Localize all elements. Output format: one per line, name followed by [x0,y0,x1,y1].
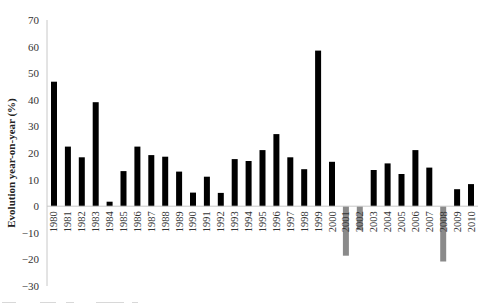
x-tick-label: 1988 [160,211,171,232]
x-tick-label: 1994 [243,210,254,232]
caption-fragment-line [132,302,138,303]
x-tick-label: 1990 [187,211,198,232]
bar-1986 [134,147,140,207]
bar-2007 [426,168,432,207]
bar-1999 [315,51,321,207]
bar-1984 [107,202,113,207]
clipped-caption [0,300,492,305]
bar-1992 [218,193,224,206]
x-tick-label: 2005 [396,211,407,232]
caption-fragment-line [40,302,56,303]
x-tick-label: 1985 [118,211,129,232]
x-tick-label: 1998 [299,211,310,232]
x-tick-label: 2006 [410,211,421,232]
y-tick-label: 10 [28,174,40,186]
x-tick-label: 2007 [424,211,435,232]
x-tick-label: 2004 [382,210,393,232]
x-tick-label: 1992 [215,211,226,232]
caption-fragment-line [2,302,16,303]
bar-1990 [190,193,196,207]
x-tick-label: 1993 [229,211,240,232]
x-tick-label: 2008 [438,211,449,232]
bar-1994 [246,161,252,206]
y-tick-label: 20 [28,147,40,159]
y-tick-label: 50 [28,67,40,79]
caption-fragment-line [66,302,74,303]
x-tick-label: 2009 [452,211,463,232]
bar-1998 [301,169,307,206]
x-tick-label: 1986 [132,211,143,232]
bar-2010 [468,184,474,206]
x-tick-label: 1991 [201,211,212,232]
x-tick-label: 1987 [146,211,157,232]
x-tick-label: 2001 [340,211,351,232]
y-tick-label: 70 [28,14,40,26]
x-tick-label: 1995 [257,211,268,232]
x-tick-label: 1980 [48,211,59,232]
bar-1981 [65,147,71,207]
y-tick-label: 60 [28,41,40,53]
caption-fragment-line [96,302,124,303]
x-tick-label: 1981 [62,211,73,232]
bar-2000 [329,162,335,206]
bar-1991 [204,177,210,207]
x-tick-label: 1997 [285,211,296,232]
bar-1982 [79,157,85,206]
bar-2009 [454,189,460,206]
bar-1997 [287,157,293,206]
x-tick-label: 1989 [174,211,185,232]
y-tick-label: 40 [28,94,40,106]
x-tick-label: 2003 [368,211,379,232]
bar-1993 [232,159,238,206]
y-axis-title-group: Evolution year-on-year (%) [5,98,18,228]
bar-1987 [148,155,154,206]
x-tick-label: 2002 [354,211,365,232]
bar-2004 [385,163,391,206]
y-tick-label: −10 [22,227,40,239]
bar-1989 [176,172,182,207]
x-tick-label: 1984 [104,210,115,232]
x-tick-label: 1982 [76,211,87,232]
bar-1996 [273,134,279,206]
x-tick-label: 1999 [313,211,324,232]
x-axis-ticks: 1980198119821983198419851986198719881989… [48,210,476,232]
bar-1995 [260,150,266,206]
bar-1980 [51,82,57,207]
y-tick-label: 0 [34,200,40,212]
bar-1985 [121,171,127,206]
y-axis-ticks: 706050403020100−10−20−30 [22,14,40,292]
bar-2005 [399,174,405,206]
bar-2006 [412,150,418,206]
y-axis-title: Evolution year-on-year (%) [5,98,18,228]
y-tick-label: 30 [28,120,40,132]
y-tick-label: −20 [22,253,40,265]
y-tick-label: −30 [22,280,40,292]
bar-1988 [162,157,168,207]
x-tick-label: 1996 [271,211,282,232]
x-tick-label: 2000 [327,211,338,232]
bar-1983 [93,102,99,206]
bar-2003 [371,170,377,206]
x-tick-label: 2010 [466,211,477,232]
x-tick-label: 1983 [90,211,101,232]
bar-chart: Evolution year-on-year (%) 7060504030201… [0,0,492,305]
